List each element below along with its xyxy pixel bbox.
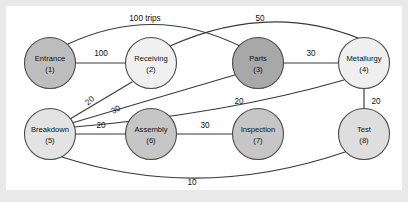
node-circle bbox=[126, 38, 177, 89]
node-name-label: Inspection bbox=[241, 125, 276, 134]
node-1-entrance[interactable]: Entrance(1) bbox=[25, 38, 76, 89]
edge-5-2 bbox=[70, 82, 132, 119]
figure-container: Entrance(1)Receiving(2)Parts(3)Metallurg… bbox=[0, 0, 408, 202]
node-5-breakdown[interactable]: Breakdown(5) bbox=[25, 109, 76, 160]
node-id-label: (2) bbox=[146, 65, 156, 74]
node-circle bbox=[233, 109, 284, 160]
edge-labels-layer: 100100 trips503020203020203010 bbox=[83, 14, 381, 187]
edge-weight-label-1-2: 100 bbox=[94, 49, 108, 58]
node-id-label: (1) bbox=[45, 65, 55, 74]
node-id-label: (7) bbox=[253, 136, 263, 145]
edge-weight-label-5-8: 10 bbox=[187, 178, 197, 187]
edge-weight-label-4-8: 20 bbox=[371, 97, 381, 106]
edge-weight-label-5-4: 20 bbox=[234, 97, 244, 106]
node-circle bbox=[25, 109, 76, 160]
edge-weight-label-5-2: 20 bbox=[83, 94, 96, 107]
node-4-metallurgy[interactable]: Metallurgy(4) bbox=[339, 38, 390, 89]
node-circle bbox=[25, 38, 76, 89]
node-2-receiving[interactable]: Receiving(2) bbox=[126, 38, 177, 89]
node-circle bbox=[233, 38, 284, 89]
node-6-assembly[interactable]: Assembly(6) bbox=[126, 109, 177, 160]
node-name-label: Assembly bbox=[135, 125, 168, 134]
node-7-inspection[interactable]: Inspection(7) bbox=[233, 109, 284, 160]
edge-5-4 bbox=[74, 80, 344, 127]
edge-weight-label-3-4: 30 bbox=[306, 49, 316, 58]
edge-weight-label-5-6: 20 bbox=[96, 121, 106, 130]
node-name-label: Metallurgy bbox=[346, 54, 381, 63]
node-name-label: Test bbox=[357, 125, 372, 134]
node-name-label: Receiving bbox=[134, 54, 167, 63]
node-id-label: (6) bbox=[146, 136, 156, 145]
edge-weight-label-1-3: 100 trips bbox=[129, 14, 160, 23]
diagram-canvas: Entrance(1)Receiving(2)Parts(3)Metallurg… bbox=[6, 6, 402, 190]
edge-weight-label-6-7: 30 bbox=[200, 121, 210, 130]
node-id-label: (5) bbox=[45, 136, 55, 145]
node-8-test[interactable]: Test(8) bbox=[339, 109, 390, 160]
node-id-label: (3) bbox=[253, 65, 263, 74]
node-name-label: Parts bbox=[249, 54, 267, 63]
node-id-label: (4) bbox=[359, 65, 369, 74]
edge-weight-label-5-3: 30 bbox=[110, 103, 123, 115]
node-id-label: (8) bbox=[359, 136, 369, 145]
node-name-label: Breakdown bbox=[31, 125, 69, 134]
edge-5-8 bbox=[62, 151, 348, 178]
node-circle bbox=[339, 38, 390, 89]
node-3-parts[interactable]: Parts(3) bbox=[233, 38, 284, 89]
node-name-label: Entrance bbox=[35, 54, 65, 63]
nodes-layer: Entrance(1)Receiving(2)Parts(3)Metallurg… bbox=[25, 38, 390, 160]
edge-weight-label-2-4: 50 bbox=[255, 14, 265, 23]
node-circle bbox=[126, 109, 177, 160]
edges-layer bbox=[62, 22, 364, 178]
network-diagram: Entrance(1)Receiving(2)Parts(3)Metallurg… bbox=[6, 6, 402, 190]
node-circle bbox=[339, 109, 390, 160]
